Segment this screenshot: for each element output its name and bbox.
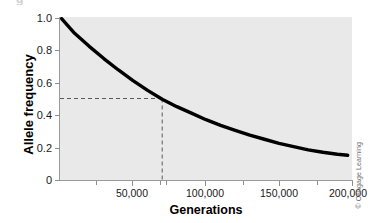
- x-tick-label: 100,000: [186, 188, 224, 199]
- y-tick-mark: [55, 148, 60, 149]
- y-tick-label: 1.0: [37, 13, 52, 24]
- y-tick-mark: [55, 115, 60, 116]
- x-minor-tick-mark: [317, 181, 318, 185]
- plot-area: [60, 17, 352, 180]
- x-tick-label: 50,000: [116, 188, 148, 199]
- x-minor-tick-mark: [160, 181, 161, 185]
- clipped-figure-label-glyph: g: [16, 0, 30, 5]
- x-tick-mark: [205, 181, 206, 186]
- y-tick-label: 0.6: [37, 78, 52, 89]
- x-tick-mark: [352, 181, 353, 186]
- y-axis-title: Allele frequency: [21, 25, 36, 185]
- x-axis-line: [59, 180, 353, 181]
- y-tick-label: 0.4: [37, 110, 52, 121]
- y-tick-label: 0: [46, 175, 52, 186]
- x-tick-mark: [279, 181, 280, 186]
- copyright-credit: © Cengage Learning: [355, 91, 362, 209]
- y-tick-mark: [55, 18, 60, 19]
- decay-curve: [62, 19, 348, 156]
- x-tick-label: 150,000: [260, 188, 298, 199]
- x-minor-tick-mark: [243, 181, 244, 185]
- x-minor-tick-mark: [166, 181, 167, 185]
- x-axis-title: Generations: [60, 203, 352, 217]
- x-minor-tick-mark: [96, 181, 97, 185]
- x-tick-mark: [132, 181, 133, 186]
- y-tick-mark: [55, 83, 60, 84]
- y-tick-label: 0.8: [37, 45, 52, 56]
- y-tick-label: 0.2: [37, 143, 52, 154]
- y-tick-mark: [55, 180, 60, 181]
- y-axis-line: [59, 17, 60, 181]
- chart-canvas: [60, 17, 352, 180]
- y-tick-mark: [55, 50, 60, 51]
- allele-frequency-figure: g 1.0 0.8 0.6 0.4 0.2 0 50,000 100,000 1…: [0, 0, 378, 223]
